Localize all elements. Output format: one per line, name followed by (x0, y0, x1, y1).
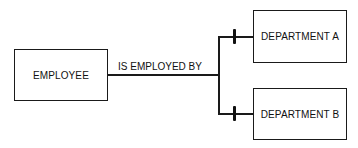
entity-department-b: DEPARTMENT B (253, 88, 347, 140)
entity-department-a-label: DEPARTMENT A (261, 31, 339, 42)
entity-department-b-label: DEPARTMENT B (261, 109, 339, 120)
relationship-branch-vertical (218, 36, 220, 114)
entity-department-a: DEPARTMENT A (253, 10, 347, 63)
cardinality-one-marker-b (233, 106, 236, 121)
entity-employee: EMPLOYEE (14, 49, 108, 101)
relationship-label: IS EMPLOYED BY (118, 61, 202, 72)
entity-employee-label: EMPLOYEE (33, 70, 89, 81)
relationship-line-main (107, 74, 219, 76)
cardinality-one-marker-a (233, 29, 236, 44)
